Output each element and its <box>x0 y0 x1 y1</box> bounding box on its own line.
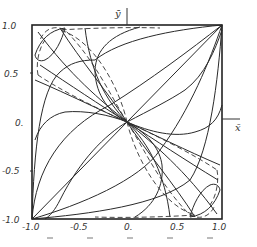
lens-curve-upper-1 <box>95 25 222 60</box>
caption-fragment <box>127 237 133 239</box>
center-arc-lower-left <box>45 122 127 219</box>
fan-ul-corner-loop <box>35 28 65 61</box>
fan-ul-3 <box>85 28 127 122</box>
fan-lr-1 <box>127 122 217 214</box>
y-tick-label: -0.5 <box>2 166 20 176</box>
fan-ul-2 <box>40 65 127 122</box>
caption-fragment <box>87 237 93 239</box>
x-axis-label: x̄ <box>235 122 241 133</box>
y-tick-label: -1.0 <box>2 215 20 225</box>
phase-diagram: ȳ x̄ 1.0 0.5 0. -0.5 -1.0 -1.0 -0.5 0. 0… <box>0 0 257 247</box>
y-tick-label: 0.5 <box>4 69 19 79</box>
x-tick-label: -0.5 <box>70 222 88 232</box>
y-axis-label: ȳ <box>114 8 121 19</box>
caption-fragment <box>207 237 213 239</box>
x-tick-label: 0.5 <box>170 222 185 232</box>
caption-fragment <box>47 237 53 239</box>
dashed-ul-4 <box>37 40 45 75</box>
x-tick-label: -1.0 <box>22 222 40 232</box>
fan-ul-1 <box>38 32 127 122</box>
center-arc-right <box>127 105 222 134</box>
fan-lr-2 <box>127 122 218 180</box>
fan-lr-4 <box>127 122 220 165</box>
center-arc-upper-right <box>127 30 222 122</box>
x-tick-label: 0. <box>124 222 133 232</box>
x-tick-label: 1.0 <box>212 222 227 232</box>
dashed-ul-1 <box>40 28 127 122</box>
fan-ul-4 <box>35 80 127 122</box>
fan-ul-5 <box>60 28 127 122</box>
y-tick-label: 1.0 <box>2 21 17 31</box>
caption-fragment <box>167 237 173 239</box>
y-tick-label: 0. <box>15 118 24 128</box>
fan-lr-5 <box>127 122 195 217</box>
caption-remnant <box>30 237 230 243</box>
